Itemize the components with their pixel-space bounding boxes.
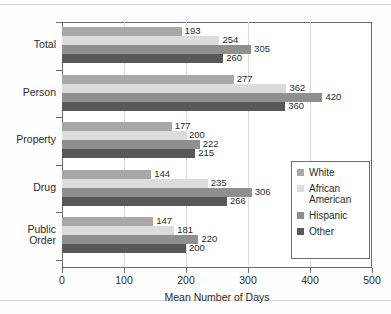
- bar[interactable]: [62, 235, 198, 244]
- legend-item[interactable]: Other: [297, 226, 369, 237]
- bar[interactable]: [62, 179, 208, 188]
- bar[interactable]: [62, 197, 227, 206]
- bar[interactable]: [62, 93, 322, 102]
- bar-group: 193254305260: [62, 27, 372, 63]
- x-tick: [310, 268, 311, 273]
- legend-label: Hispanic: [309, 210, 347, 221]
- x-tick-label: 400: [290, 275, 330, 286]
- bar-value-label: 193: [185, 26, 201, 36]
- category-label-line: Drug: [2, 182, 56, 194]
- bar[interactable]: [62, 84, 286, 93]
- x-tick: [186, 268, 187, 273]
- bar[interactable]: [62, 140, 200, 149]
- bar[interactable]: [62, 45, 251, 54]
- x-tick-label: 300: [228, 275, 268, 286]
- category-label: Property: [2, 134, 56, 146]
- legend-swatch-icon: [297, 185, 304, 192]
- y-tick: [56, 212, 62, 213]
- legend-item[interactable]: Hispanic: [297, 210, 369, 221]
- bar-value-label: 260: [226, 53, 242, 63]
- bar-chart: 1932543052602773624203601772002222151442…: [0, 0, 391, 314]
- x-tick: [62, 268, 63, 273]
- y-tick: [56, 70, 62, 71]
- x-tick-label: 200: [166, 275, 206, 286]
- x-tick-label: 100: [104, 275, 144, 286]
- bar-group: 277362420360: [62, 75, 372, 111]
- bar[interactable]: [62, 36, 219, 45]
- legend-label: Other: [309, 226, 334, 237]
- bar[interactable]: [62, 170, 151, 179]
- bar-value-label: 200: [189, 243, 205, 253]
- category-label-line: Order: [2, 235, 56, 247]
- category-label: Person: [2, 87, 56, 99]
- category-label: Drug: [2, 182, 56, 194]
- y-tick: [56, 260, 62, 261]
- bar-value-label: 215: [198, 148, 214, 158]
- legend-swatch-icon: [297, 212, 304, 219]
- legend: WhiteAfrican AmericanHispanicOther: [291, 161, 370, 259]
- y-tick: [56, 165, 62, 166]
- bar[interactable]: [62, 131, 186, 140]
- category-label: Total: [2, 39, 56, 51]
- legend-item[interactable]: African American: [297, 183, 369, 205]
- legend-label: White: [309, 167, 335, 178]
- bar-value-label: 360: [288, 101, 304, 111]
- y-tick: [56, 117, 62, 118]
- bar[interactable]: [62, 122, 172, 131]
- chart-page: 1932543052602773624203601772002222151442…: [0, 0, 391, 314]
- category-label-line: Person: [2, 87, 56, 99]
- bar-group: 177200222215: [62, 122, 372, 158]
- legend-swatch-icon: [297, 169, 304, 176]
- x-tick-label: 0: [42, 275, 82, 286]
- bar[interactable]: [62, 149, 195, 158]
- bar-value-label: 362: [289, 83, 305, 93]
- bar-value-label: 306: [255, 187, 271, 197]
- bar[interactable]: [62, 226, 174, 235]
- bar[interactable]: [62, 244, 186, 253]
- bar-value-label: 266: [230, 196, 246, 206]
- bar-value-label: 235: [211, 178, 227, 188]
- bar[interactable]: [62, 75, 234, 84]
- bar-value-label: 277: [237, 74, 253, 84]
- bar-value-label: 420: [325, 92, 341, 102]
- x-tick: [372, 268, 373, 273]
- bar[interactable]: [62, 27, 182, 36]
- category-label: PublicOrder: [2, 224, 56, 247]
- x-tick: [124, 268, 125, 273]
- y-tick: [56, 22, 62, 23]
- category-label-line: Total: [2, 39, 56, 51]
- bar-value-label: 254: [222, 35, 238, 45]
- bar[interactable]: [62, 54, 223, 63]
- legend-swatch-icon: [297, 228, 304, 235]
- category-label-line: Property: [2, 134, 56, 146]
- legend-item[interactable]: White: [297, 167, 369, 178]
- legend-label: African American: [309, 183, 351, 205]
- bar-value-label: 147: [156, 216, 172, 226]
- bar[interactable]: [62, 217, 153, 226]
- bar-value-label: 181: [177, 225, 193, 235]
- x-axis-title: Mean Number of Days: [62, 291, 372, 303]
- bar[interactable]: [62, 102, 285, 111]
- bar[interactable]: [62, 188, 252, 197]
- bar-value-label: 144: [154, 169, 170, 179]
- x-tick-label: 500: [352, 275, 391, 286]
- bar-value-label: 305: [254, 44, 270, 54]
- x-tick: [248, 268, 249, 273]
